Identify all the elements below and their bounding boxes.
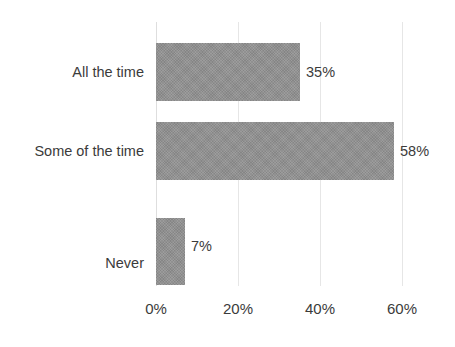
bar-never[interactable] [156,218,185,285]
xtick-label-40: 40% [290,300,350,318]
bar-chart: All the time Some of the time Never 35% … [0,0,455,347]
value-label-some-of-the-time: 58% [400,143,429,159]
bar-all-the-time[interactable] [156,43,300,101]
category-label-some-of-the-time: Some of the time [0,143,150,159]
category-label-all-the-time: All the time [0,64,150,80]
xtick-label-20: 20% [208,300,268,318]
xtick-label-0: 0% [126,300,186,318]
category-label-never: Never [0,255,150,271]
bar-some-of-the-time[interactable] [156,122,394,180]
value-label-never: 7% [191,238,212,254]
xtick-label-60: 60% [372,300,432,318]
value-label-all-the-time: 35% [306,64,335,80]
